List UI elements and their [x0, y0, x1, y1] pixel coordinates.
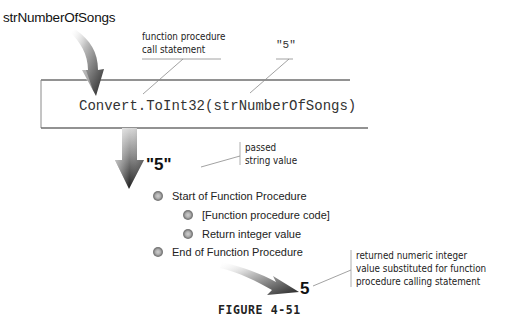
passed-string-callout: passed string value	[245, 141, 297, 167]
procedure-step-end: End of Function Procedure	[153, 246, 303, 258]
callout-line: call statement	[142, 43, 225, 56]
callout-line: passed	[245, 141, 297, 154]
step-label: End of Function Procedure	[172, 246, 303, 258]
bullet-icon	[183, 229, 193, 239]
argument-value-leader	[250, 59, 293, 93]
callout-line: value substituted for function	[356, 262, 486, 275]
figure-caption: FIGURE 4-51	[218, 303, 301, 317]
bullet-icon	[153, 247, 163, 257]
result-value: 5	[300, 279, 309, 299]
call-statement-callout: function procedure call statement	[142, 30, 225, 56]
passed-value: "5"	[146, 155, 172, 175]
input-variable-label: strNumberOfSongs	[3, 10, 115, 25]
result-arrow-icon	[220, 262, 299, 295]
bullet-icon	[183, 210, 193, 220]
call-statement-leader	[142, 59, 221, 94]
returned-value-leader	[313, 250, 351, 287]
callout-line: function procedure	[142, 30, 225, 43]
callout-line: returned numeric integer	[356, 249, 486, 262]
passed-string-leader	[201, 142, 240, 167]
passed-value-arrow-icon	[115, 128, 144, 189]
procedure-step-return: Return integer value	[183, 228, 301, 240]
step-label: [Function procedure code]	[202, 209, 330, 221]
step-label: Start of Function Procedure	[172, 190, 307, 202]
callout-line: procedure calling statement	[356, 275, 486, 288]
returned-value-callout: returned numeric integer value substitut…	[356, 249, 486, 288]
figure-4-51-diagram: strNumberOfSongs function procedure call…	[0, 0, 510, 331]
argument-value-callout: "5"	[276, 39, 296, 51]
procedure-step-start: Start of Function Procedure	[153, 190, 307, 202]
callout-line: string value	[245, 154, 297, 167]
input-arrow-icon	[70, 30, 104, 96]
code-statement: Convert.ToInt32(strNumberOfSongs)	[79, 98, 356, 114]
bullet-icon	[153, 191, 163, 201]
procedure-step-code: [Function procedure code]	[183, 209, 330, 221]
step-label: Return integer value	[202, 228, 301, 240]
